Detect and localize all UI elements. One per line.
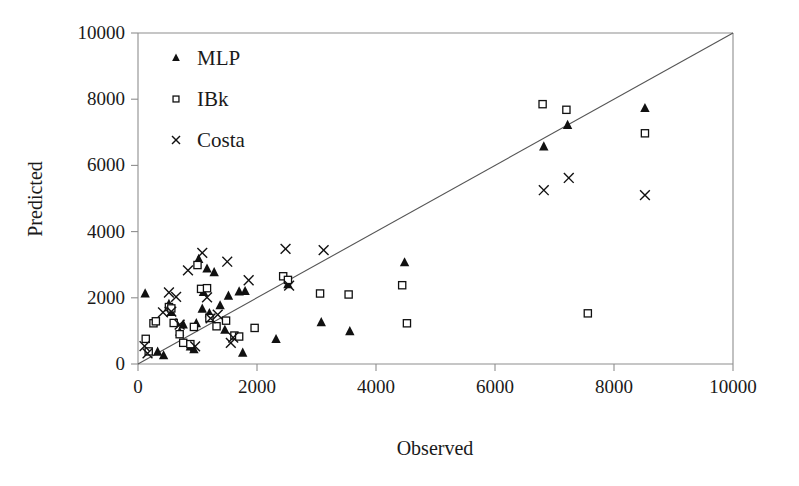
data-point-mlp bbox=[215, 300, 224, 309]
legend-item-costa: Costa bbox=[172, 128, 246, 152]
legend-marker-mlp bbox=[172, 53, 180, 61]
data-point-ibk bbox=[403, 320, 410, 327]
data-point-ibk bbox=[194, 261, 201, 268]
data-point-ibk bbox=[539, 101, 546, 108]
legend-label-costa: Costa bbox=[197, 128, 246, 152]
y-tick-label: 10000 bbox=[78, 22, 126, 43]
x-axis-title: Observed bbox=[397, 437, 474, 459]
chart-canvas: 0200040006000800010000 02000400060008000… bbox=[0, 0, 799, 486]
y-tick-label: 2000 bbox=[87, 287, 125, 308]
data-point-mlp bbox=[198, 303, 207, 312]
legend-label-mlp: MLP bbox=[197, 46, 240, 70]
data-point-ibk bbox=[641, 130, 648, 137]
data-point-mlp bbox=[238, 347, 247, 356]
y-tick-label: 4000 bbox=[87, 221, 125, 242]
data-point-mlp bbox=[224, 291, 233, 300]
scatter-plot-figure: 0200040006000800010000 02000400060008000… bbox=[0, 0, 799, 486]
data-point-ibk bbox=[213, 323, 220, 330]
data-point-ibk bbox=[316, 290, 323, 297]
chart-legend: MLPIBkCosta bbox=[172, 46, 246, 152]
y-tick-label: 8000 bbox=[87, 88, 125, 109]
y-axis-tick-labels: 0200040006000800010000 bbox=[78, 22, 126, 374]
x-axis-tick-labels: 0200040006000800010000 bbox=[133, 376, 757, 397]
legend-label-ibk: IBk bbox=[197, 87, 229, 111]
data-point-mlp bbox=[202, 263, 211, 272]
data-point-mlp bbox=[220, 325, 229, 334]
data-point-costa bbox=[183, 265, 193, 275]
data-point-ibk bbox=[222, 317, 229, 324]
identity-reference-line bbox=[138, 33, 733, 364]
data-point-mlp bbox=[345, 326, 354, 335]
data-point-ibk bbox=[142, 335, 149, 342]
data-point-costa bbox=[222, 257, 232, 267]
data-point-mlp bbox=[240, 286, 249, 295]
data-point-costa bbox=[281, 244, 291, 254]
y-axis-title: Predicted bbox=[24, 161, 46, 237]
data-point-costa bbox=[319, 245, 329, 255]
x-tick-label: 8000 bbox=[595, 376, 633, 397]
data-point-mlp bbox=[317, 317, 326, 326]
data-point-mlp bbox=[400, 257, 409, 266]
x-axis-tick-marks bbox=[138, 364, 733, 371]
data-point-mlp bbox=[640, 103, 649, 112]
data-point-costa bbox=[197, 248, 207, 258]
x-tick-label: 4000 bbox=[357, 376, 395, 397]
legend-marker-ibk bbox=[173, 96, 179, 102]
data-point-mlp bbox=[539, 141, 548, 150]
data-point-ibk bbox=[251, 324, 258, 331]
data-point-ibk bbox=[399, 282, 406, 289]
series-costa bbox=[140, 173, 650, 358]
x-tick-label: 6000 bbox=[476, 376, 514, 397]
x-tick-label: 0 bbox=[133, 376, 143, 397]
data-point-ibk bbox=[584, 310, 591, 317]
data-point-ibk bbox=[203, 285, 210, 292]
data-point-ibk bbox=[176, 331, 183, 338]
data-point-costa bbox=[640, 190, 650, 200]
data-point-mlp bbox=[271, 334, 280, 343]
data-point-ibk bbox=[152, 318, 159, 325]
x-tick-label: 10000 bbox=[709, 376, 757, 397]
legend-marker-costa bbox=[172, 136, 180, 144]
legend-item-ibk: IBk bbox=[173, 87, 229, 111]
data-point-mlp bbox=[563, 120, 572, 129]
data-point-costa bbox=[244, 275, 254, 285]
data-point-costa bbox=[564, 173, 574, 183]
y-tick-label: 0 bbox=[116, 353, 126, 374]
data-point-ibk bbox=[190, 323, 197, 330]
legend-item-mlp: MLP bbox=[172, 46, 240, 70]
y-axis-tick-marks bbox=[131, 33, 138, 364]
x-tick-label: 2000 bbox=[238, 376, 276, 397]
data-point-ibk bbox=[345, 291, 352, 298]
data-point-mlp bbox=[140, 288, 149, 297]
data-point-ibk bbox=[563, 106, 570, 113]
data-point-costa bbox=[539, 185, 549, 195]
y-tick-label: 6000 bbox=[87, 154, 125, 175]
data-point-ibk bbox=[180, 339, 187, 346]
